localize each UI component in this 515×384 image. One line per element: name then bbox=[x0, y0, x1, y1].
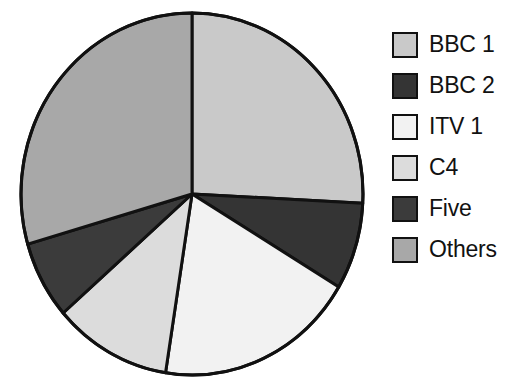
legend-swatch-icon bbox=[392, 155, 418, 181]
chart-legend: BBC 1 BBC 2 ITV 1 C4 Five Others bbox=[392, 24, 515, 270]
pie-slice-bbc-1[interactable] bbox=[192, 13, 363, 203]
legend-item-bbc-2[interactable]: BBC 2 bbox=[392, 65, 515, 106]
pie-chart-svg bbox=[0, 0, 385, 384]
legend-swatch-icon bbox=[392, 196, 418, 222]
legend-label: Five bbox=[429, 197, 472, 220]
pie-slice-group bbox=[21, 13, 363, 375]
legend-swatch-icon bbox=[392, 32, 418, 58]
legend-label: BBC 2 bbox=[429, 74, 494, 97]
legend-item-itv-1[interactable]: ITV 1 bbox=[392, 106, 515, 147]
pie-chart-figure: BBC 1 BBC 2 ITV 1 C4 Five Others bbox=[0, 0, 515, 384]
legend-swatch-icon bbox=[392, 114, 418, 140]
legend-label: Others bbox=[429, 238, 497, 261]
legend-label: BBC 1 bbox=[429, 33, 494, 56]
legend-swatch-icon bbox=[392, 73, 418, 99]
legend-label: C4 bbox=[429, 156, 458, 179]
legend-item-c4[interactable]: C4 bbox=[392, 147, 515, 188]
legend-item-others[interactable]: Others bbox=[392, 229, 515, 270]
legend-item-five[interactable]: Five bbox=[392, 188, 515, 229]
pie-chart-plot-area bbox=[0, 0, 385, 384]
legend-swatch-icon bbox=[392, 237, 418, 263]
legend-item-bbc-1[interactable]: BBC 1 bbox=[392, 24, 515, 65]
legend-label: ITV 1 bbox=[429, 115, 483, 138]
